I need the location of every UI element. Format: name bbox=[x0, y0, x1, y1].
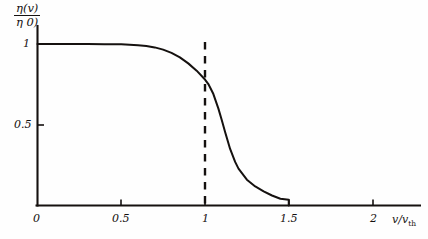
x-axis-label-subscript: th bbox=[408, 219, 416, 228]
y-tick-label-1: 1 bbox=[23, 37, 30, 50]
x-tick-label-2: 2 bbox=[370, 212, 377, 225]
y-axis-label-numerator: η(v) bbox=[14, 2, 40, 14]
y-axis-label-denominator: η 0) bbox=[14, 16, 40, 28]
figure-container: η(v) η 0) v/vth 0 0.5 1 1.5 2 1 0.5 bbox=[0, 0, 428, 239]
x-tick-label-1.5: 1.5 bbox=[280, 212, 298, 225]
x-tick-label-1: 1 bbox=[202, 212, 209, 225]
x-axis-label-main: v/v bbox=[392, 213, 408, 226]
eta-ratio-curve bbox=[38, 44, 289, 206]
axes-group bbox=[37, 26, 421, 206]
x-tick-label-0.5: 0.5 bbox=[112, 212, 130, 225]
y-tick-label-0.5: 0.5 bbox=[14, 118, 32, 131]
x-axis-label: v/vth bbox=[392, 213, 416, 228]
y-axis-label: η(v) η 0) bbox=[14, 2, 40, 28]
chart-canvas bbox=[0, 0, 428, 239]
x-tick-label-0: 0 bbox=[33, 212, 40, 225]
